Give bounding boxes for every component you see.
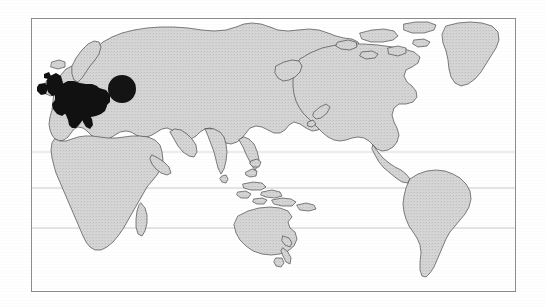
world-map [0, 0, 546, 307]
circle-marker [108, 75, 136, 103]
land-iceland [51, 60, 65, 69]
figure-root [0, 0, 546, 307]
